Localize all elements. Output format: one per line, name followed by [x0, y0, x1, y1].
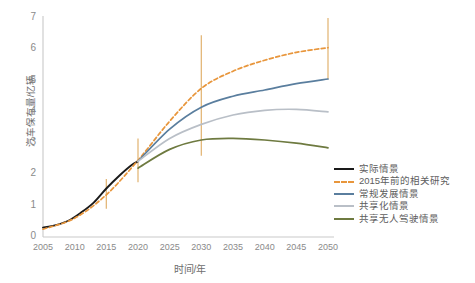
legend-label: 共享化情景 [359, 200, 409, 212]
y-tick-label: 1 [12, 199, 36, 210]
y-tick-label: 2 [12, 167, 36, 178]
y-tick-label: 5 [12, 74, 36, 85]
x-axis-title: 时间/年 [110, 261, 270, 276]
legend-label: 2015年前的相关研究 [359, 175, 450, 187]
y-tick-label: 4 [12, 105, 36, 116]
series-line [138, 79, 328, 161]
series-line [43, 161, 138, 227]
legend-item[interactable]: 实际情景 [334, 163, 450, 175]
y-tick-label: 3 [12, 136, 36, 147]
x-tick-label: 2050 [308, 242, 348, 252]
y-tick-label: 0 [12, 230, 36, 241]
y-tick-label: 6 [12, 42, 36, 53]
y-tick-label: 7 [12, 11, 36, 22]
series-line [138, 109, 328, 161]
legend-label: 实际情景 [359, 163, 399, 175]
legend-item[interactable]: 共享化情景 [334, 200, 450, 212]
series-line [138, 138, 328, 168]
legend-label: 常规发展情景 [359, 188, 419, 200]
legend-item[interactable]: 2015年前的相关研究 [334, 175, 450, 187]
chart-container: 汽车保有量/亿辆 时间/年 76543210 20052010201520202… [0, 0, 475, 283]
legend-item[interactable]: 共享无人驾驶情景 [334, 213, 450, 225]
line-chart-plot [0, 0, 475, 283]
chart-legend: 实际情景2015年前的相关研究常规发展情景共享化情景共享无人驾驶情景 [334, 163, 450, 225]
legend-label: 共享无人驾驶情景 [359, 213, 439, 225]
legend-item[interactable]: 常规发展情景 [334, 188, 450, 200]
series-line [43, 48, 328, 229]
